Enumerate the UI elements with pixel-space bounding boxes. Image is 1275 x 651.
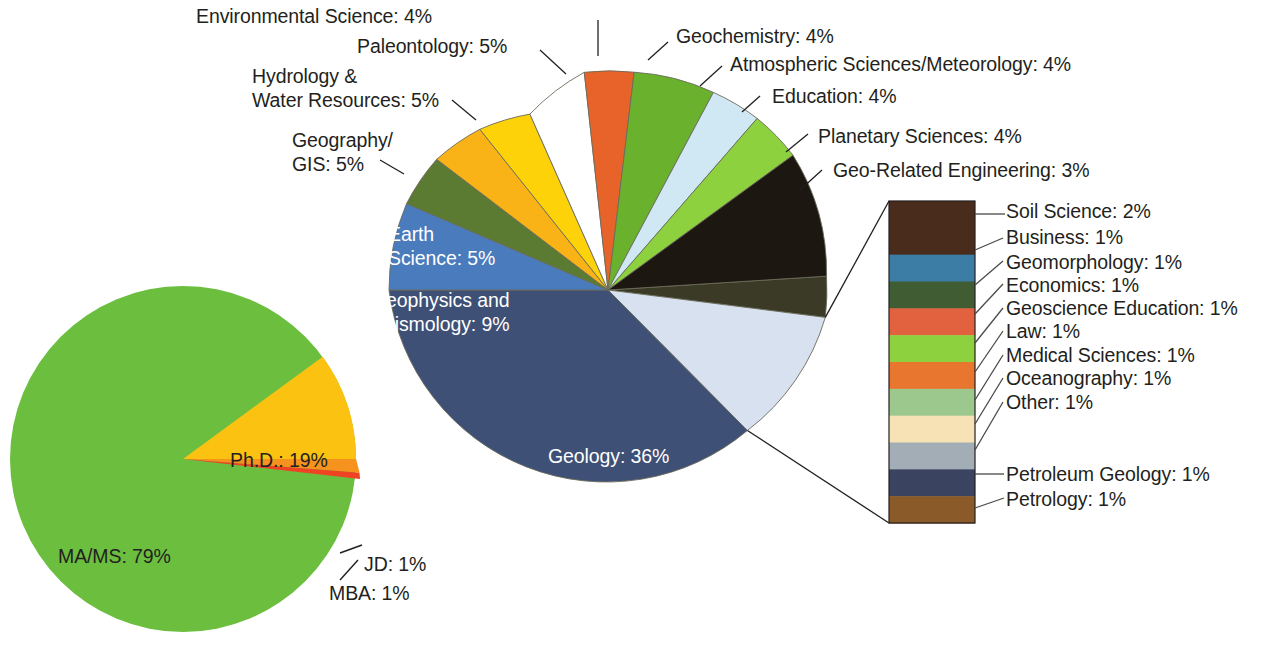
discipline-label-atmospheric: Atmospheric Sciences/Meteorology: 4%: [730, 52, 1071, 76]
discipline-label-geochemistry: Geochemistry: 4%: [676, 24, 834, 48]
degree-callout-line-mba: [340, 560, 358, 580]
discipline-label-earth-science-line2: Science: 5%: [388, 246, 495, 270]
legend-color-bar: [889, 201, 975, 524]
legend-item-label-4: Geoscience Education: 1%: [1006, 297, 1238, 320]
legend-item-label-2: Geomorphology: 1%: [1006, 251, 1182, 274]
legend-band-2: [889, 282, 975, 309]
legend-item-label-0: Soil Science: 2%: [1006, 200, 1151, 223]
degree-label-phd: Ph.D.: 19%: [230, 448, 328, 472]
discipline-label-hydrology-line1: Hydrology &: [252, 64, 357, 88]
discipline-label-geography-line2: GIS: 5%: [292, 152, 364, 176]
discipline-label-geology: Geology: 36%: [548, 444, 669, 468]
discipline-label-environmental-science: Environmental Science: 4%: [196, 4, 432, 28]
legend-item-label-6: Medical Sciences: 1%: [1006, 344, 1195, 367]
chart-canvas: MA/MS: 79% Ph.D.: 19% JD: 1% MBA: 1% Geo…: [0, 0, 1275, 651]
discipline-label-geophysics-line2: Seismology: 9%: [371, 312, 509, 336]
discipline-label-hydrology-line2: Water Resources: 5%: [252, 88, 439, 112]
legend-item-label-7: Oceanography: 1%: [1006, 367, 1171, 390]
legend-band-6: [889, 389, 975, 416]
degree-label-ma-ms: MA/MS: 79%: [58, 544, 171, 568]
legend-leader-lines: [975, 214, 1005, 508]
legend-item-label-10: Petrology: 1%: [1006, 488, 1126, 511]
legend-band-10: [889, 496, 975, 523]
legend-band-7: [889, 416, 975, 443]
discipline-pie-group: [389, 71, 827, 482]
degree-callout-line-jd: [340, 545, 362, 553]
discipline-label-geo-engineering: Geo-Related Engineering: 3%: [833, 158, 1089, 182]
legend-band-5: [889, 362, 975, 389]
legend-item-label-3: Economics: 1%: [1006, 274, 1139, 297]
legend-band-9: [889, 469, 975, 496]
legend-item-label-1: Business: 1%: [1006, 226, 1123, 249]
discipline-label-education: Education: 4%: [772, 84, 896, 108]
discipline-label-earth-science-line1: Earth: [388, 222, 434, 246]
legend-item-label-9: Petroleum Geology: 1%: [1006, 463, 1210, 486]
discipline-label-geography-line1: Geography/: [292, 128, 393, 152]
legend-band-4: [889, 335, 975, 362]
chart-graphics-layer: [0, 0, 1275, 651]
discipline-label-geophysics-line1: Geophysics and: [371, 288, 509, 312]
degree-label-jd: JD: 1%: [364, 552, 426, 576]
discipline-label-paleontology: Paleontology: 5%: [357, 34, 507, 58]
legend-band-3: [889, 308, 975, 335]
discipline-label-planetary: Planetary Sciences: 4%: [818, 124, 1022, 148]
legend-item-label-8: Other: 1%: [1006, 391, 1093, 414]
degree-label-mba: MBA: 1%: [329, 581, 410, 605]
legend-item-label-5: Law: 1%: [1006, 320, 1080, 343]
legend-band-1: [889, 255, 975, 282]
legend-band-8: [889, 443, 975, 470]
legend-band-0: [889, 201, 975, 255]
